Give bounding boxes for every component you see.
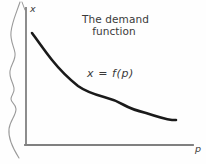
figure-canvas <box>0 0 206 164</box>
demand-curve <box>32 33 176 120</box>
page-edge-diagonal <box>22 2 25 10</box>
demand-function-figure: The demand function x = f(p) x p <box>0 0 206 164</box>
page-edge-squiggle <box>9 2 20 158</box>
